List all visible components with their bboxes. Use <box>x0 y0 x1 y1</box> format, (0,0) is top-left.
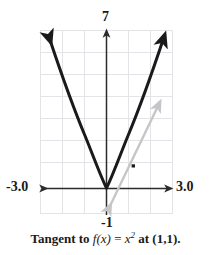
caption-prefix: Tangent to <box>30 231 92 246</box>
caption-equals: = <box>111 231 125 246</box>
y-max-label: 7 <box>0 10 211 24</box>
tangency-point-marker <box>132 164 135 167</box>
caption-function-expression: f(x) = x2 <box>93 231 135 246</box>
x-max-label: 3.0 <box>176 180 194 194</box>
caption-of-x: (x) <box>96 231 110 246</box>
graph-figure: 7 -3.0 3.0 -1 Tangent to f(x) = x2 at (1… <box>0 0 211 255</box>
y-min-label: -1 <box>101 216 113 230</box>
x-min-label: -3.0 <box>6 180 28 194</box>
caption-suffix: at (1,1). <box>135 231 181 246</box>
figure-caption: Tangent to f(x) = x2 at (1,1). <box>0 231 211 245</box>
